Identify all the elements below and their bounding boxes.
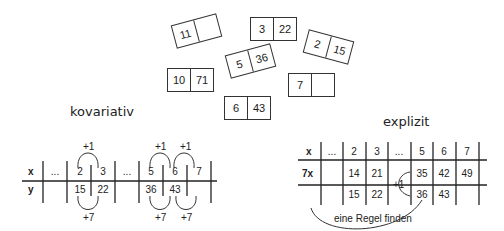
y-cell: 36	[416, 189, 428, 200]
arrow-label: +1	[155, 141, 167, 152]
arrow-label: +1	[180, 141, 192, 152]
y-cell: 43	[169, 184, 181, 195]
x-cell: 2	[351, 146, 357, 157]
x-cell: 3	[100, 166, 106, 177]
y-cell: 15	[74, 184, 86, 195]
x-cell: 5	[148, 166, 154, 177]
x-cell: 5	[419, 146, 425, 157]
x-cell: ...	[328, 146, 336, 157]
row-label-7x: 7x	[302, 168, 314, 179]
y-cell: 43	[438, 189, 450, 200]
x-cell: ...	[395, 146, 403, 157]
x-cell: 3	[374, 146, 380, 157]
7x-cell: 14	[348, 168, 360, 179]
plus-one-label: +1	[393, 179, 405, 190]
x-cell: 7	[196, 166, 202, 177]
x-cell: 6	[441, 146, 447, 157]
rule-label: eine Regel finden	[334, 213, 412, 224]
arrow-label: +7	[83, 212, 95, 223]
x-cell: 7	[464, 146, 470, 157]
7x-cell: 21	[371, 168, 383, 179]
arrow-label: +7	[155, 212, 167, 223]
row-label-x: x	[28, 166, 34, 177]
7x-cell: 49	[461, 168, 473, 179]
kovariativ-table: x y ...23...567 15223643 +1 +1 +1 +7 +7 …	[22, 141, 217, 223]
row-label-y: y	[28, 184, 34, 195]
explizit-table: x 7x ...23...567 1421354249 15223643 +1 …	[298, 142, 487, 229]
arrow-label: +7	[181, 212, 193, 223]
row-label-x: x	[306, 146, 312, 157]
x-cell: 6	[172, 166, 178, 177]
arrow-label: +1	[83, 141, 95, 152]
y-cell: 22	[371, 189, 383, 200]
7x-cell: 35	[416, 168, 428, 179]
y-cell: 36	[145, 184, 157, 195]
y-cell: 22	[97, 184, 109, 195]
x-cell: ...	[51, 166, 59, 177]
y-cell: 15	[348, 189, 360, 200]
x-cell: ...	[123, 166, 131, 177]
tables-diagram: x y ...23...567 15223643 +1 +1 +1 +7 +7 …	[0, 0, 504, 231]
7x-cell: 42	[438, 168, 450, 179]
